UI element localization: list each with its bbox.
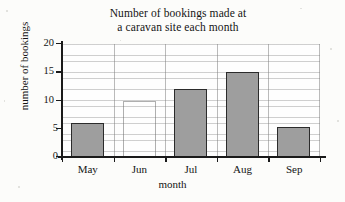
x-tick <box>268 156 269 162</box>
y-tick-label-20: 20 <box>30 37 54 48</box>
chart-page: Number of bookings made at a caravan sit… <box>0 0 345 202</box>
x-tick-label-sep: Sep <box>268 163 320 175</box>
y-axis-label: number of bookings <box>18 6 30 126</box>
category-divider <box>114 44 115 157</box>
y-tick-label-0: 0 <box>34 150 58 161</box>
scan-speckle <box>337 120 339 122</box>
chart-title-line-2: a caravan site each month <box>58 20 298 34</box>
bar-jun[interactable] <box>123 101 156 158</box>
bar-may[interactable] <box>71 123 104 157</box>
chart-title: Number of bookings made at a caravan sit… <box>58 6 298 34</box>
y-tick <box>56 71 62 72</box>
scan-speckle <box>120 40 121 41</box>
y-tick-label-5: 5 <box>34 122 58 133</box>
x-tick-label-jul: Jul <box>165 163 217 175</box>
plot-right-border <box>319 44 320 157</box>
y-tick <box>56 43 62 44</box>
x-tick-label-aug: Aug <box>217 163 269 175</box>
y-tick-label-15: 15 <box>30 65 54 76</box>
x-tick <box>320 156 321 162</box>
y-tick-label-10: 10 <box>30 94 54 105</box>
x-tick-label-jun: Jun <box>113 163 165 175</box>
bar-aug[interactable] <box>226 72 259 157</box>
x-tick <box>62 156 63 162</box>
plot-area <box>62 44 320 157</box>
scan-speckle <box>300 8 302 9</box>
scan-speckle <box>4 100 5 102</box>
x-axis-label: month <box>0 178 345 190</box>
category-divider <box>268 44 269 157</box>
category-divider <box>217 44 218 157</box>
chart-title-line-1: Number of bookings made at <box>58 6 298 20</box>
x-tick-label-may: May <box>62 163 114 175</box>
bar-jul[interactable] <box>174 89 207 157</box>
x-tick <box>217 156 218 162</box>
scan-speckle <box>6 10 8 12</box>
x-axis-line <box>58 156 326 158</box>
x-tick <box>114 156 115 162</box>
category-divider <box>165 44 166 157</box>
y-tick <box>56 100 62 101</box>
bar-sep[interactable] <box>277 127 310 158</box>
x-tick <box>165 156 166 162</box>
scan-speckle <box>330 48 332 50</box>
